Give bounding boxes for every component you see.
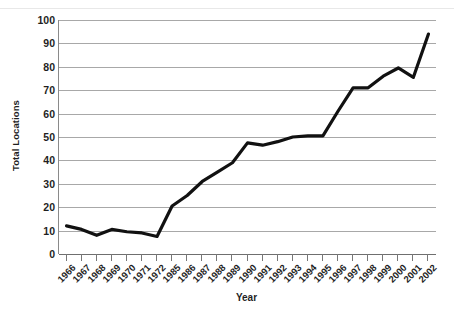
x-tick-1970 [126,254,127,261]
y-tick-label-80: 80 [24,61,55,73]
x-tick-1985 [171,254,172,261]
x-tick-2001 [412,254,413,261]
y-tick-label-40: 40 [24,154,55,166]
y-tick-label-60: 60 [24,108,55,120]
x-tick-1969 [111,254,112,261]
y-tick-label-30: 30 [24,178,55,190]
y-axis-title-label: Total Locations [10,100,21,171]
series-polyline [67,34,429,236]
x-tick-1966 [66,254,67,261]
y-tick-label-70: 70 [24,84,55,96]
x-tick-1990 [247,254,248,261]
plot-area [58,20,436,254]
x-tick-1967 [81,254,82,261]
y-tick-label-50: 50 [24,131,55,143]
line-chart: Total Locations 0102030405060708090100 1… [0,0,454,314]
x-tick-1995 [322,254,323,261]
x-tick-1996 [337,254,338,261]
x-tick-1997 [352,254,353,261]
x-tick-1991 [262,254,263,261]
x-tick-1994 [307,254,308,261]
x-tick-1998 [367,254,368,261]
y-tick-label-0: 0 [24,248,55,260]
x-axis-title: Year [58,292,435,303]
y-axis-tick-labels: 0102030405060708090100 [24,0,55,270]
x-tick-1971 [141,254,142,261]
y-tick-label-20: 20 [24,201,55,213]
series-line-total-locations [59,20,436,254]
x-tick-1988 [216,254,217,261]
x-tick-1989 [231,254,232,261]
x-tick-1999 [382,254,383,261]
x-tick-2002 [427,254,428,261]
x-tick-1986 [186,254,187,261]
x-tick-1972 [156,254,157,261]
x-tick-1987 [201,254,202,261]
x-tick-1993 [292,254,293,261]
y-tick-label-10: 10 [24,225,55,237]
x-tick-2000 [397,254,398,261]
y-tick-label-90: 90 [24,37,55,49]
y-tick-label-100: 100 [24,14,55,26]
x-tick-1992 [277,254,278,261]
x-tick-1968 [96,254,97,261]
top-edge-artifact [0,8,454,9]
